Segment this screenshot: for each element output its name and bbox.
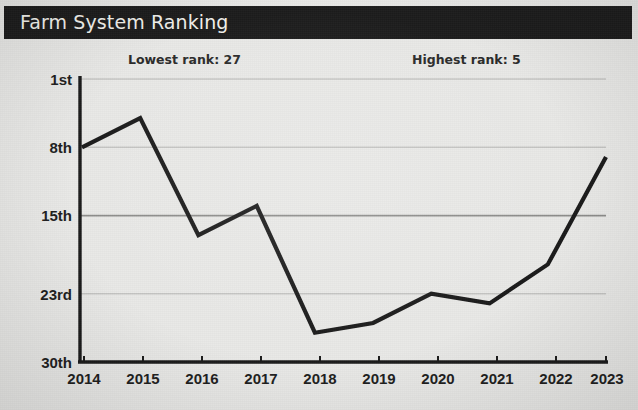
chart-canvas <box>0 0 638 410</box>
line-chart: Lowest rank: 27 Highest rank: 5 1st 8th … <box>0 0 638 410</box>
gridlines <box>80 79 606 294</box>
data-series-line <box>82 118 606 333</box>
axes <box>78 76 608 362</box>
